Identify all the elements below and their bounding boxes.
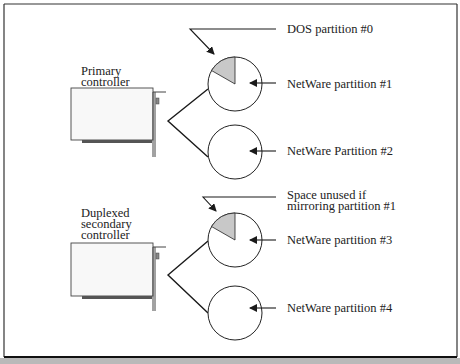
secondary-controller-label-line-3: controller	[81, 230, 132, 241]
label-netware-partition-2: NetWare Partition #2	[287, 145, 393, 157]
primary-controller-label: Primary controller	[81, 66, 130, 88]
bottom-caption-band	[0, 358, 460, 364]
label-dos-partition-0: DOS partition #0	[287, 23, 373, 35]
label-netware-partition-3: NetWare partition #3	[287, 234, 392, 246]
primary-controller-card-icon	[71, 88, 166, 157]
disk-1-pie-icon	[208, 57, 262, 111]
primary-connector-lines	[168, 89, 208, 157]
callout-space-unused	[203, 197, 276, 211]
disk-2-pie-icon	[208, 125, 262, 179]
secondary-connector-lines	[168, 241, 208, 313]
secondary-controller-card-icon	[71, 243, 166, 311]
label-space-unused: Space unused if mirroring partition #1	[287, 190, 396, 212]
label-netware-partition-4: NetWare partition #4	[287, 302, 392, 314]
label-netware-partition-1: NetWare partition #1	[287, 78, 392, 90]
callout-dos-partition-0	[190, 29, 276, 54]
disk-4-pie-icon	[208, 286, 262, 340]
secondary-controller-label: Duplexed secondary controller	[81, 208, 132, 241]
label-space-unused-line-2: mirroring partition #1	[287, 201, 396, 212]
primary-controller-label-line-2: controller	[81, 77, 130, 88]
